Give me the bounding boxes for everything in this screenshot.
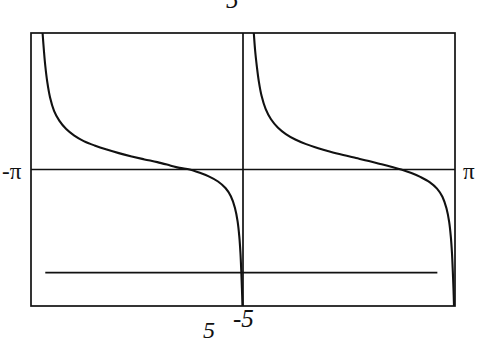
y-min-label: -5 [233,306,254,331]
y-max-label: 5 [226,0,239,12]
plot-canvas [0,0,486,349]
bottom-extra-label: 5 [203,318,215,342]
x-min-label: -π [2,160,21,183]
function-graph-figure: 5 -π π 5 -5 [0,0,486,349]
x-max-label: π [463,160,475,183]
